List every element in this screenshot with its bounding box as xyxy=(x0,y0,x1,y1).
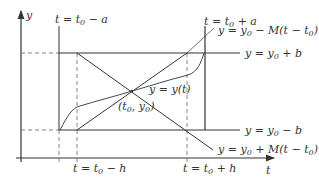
label-line-minus-M: y = y0 − M(t − t0) xyxy=(217,24,318,38)
label-t-minus-a: t = t0 − a xyxy=(55,13,108,27)
leader-minus-M xyxy=(187,28,214,53)
label-line-plus-M: y = y0 + M(t − t0) xyxy=(217,143,318,157)
t-axis-label: t xyxy=(266,164,271,177)
label-t-minus-h: t = t0 − h xyxy=(73,162,126,176)
center-point xyxy=(131,90,133,92)
diagram-canvas: y t t = t0 − a t = t0 + a y = y0 − M(t −… xyxy=(0,0,319,182)
label-t-plus-h: t = t0 + h xyxy=(183,162,236,176)
label-y-plus-b: y = y0 + b xyxy=(244,47,302,61)
label-y-minus-b: y = y0 − b xyxy=(244,124,302,138)
y-axis-label: y xyxy=(25,9,33,22)
label-solution-curve: y = y(t) xyxy=(148,83,191,96)
label-center-point: (t0, y0) xyxy=(118,100,154,114)
